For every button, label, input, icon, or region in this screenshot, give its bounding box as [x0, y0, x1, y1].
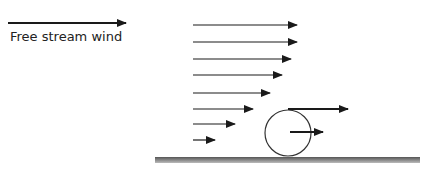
free-stream-wind-label: Free stream wind [10, 29, 122, 44]
diagram-canvas: Free stream wind [0, 0, 434, 171]
diagram-svg [0, 0, 434, 171]
wind-profile-arrows [193, 25, 297, 140]
ground-surface [155, 157, 420, 163]
